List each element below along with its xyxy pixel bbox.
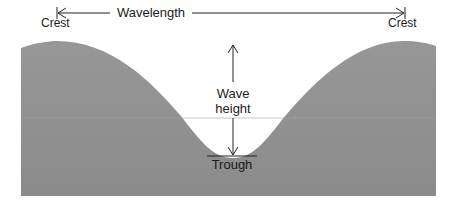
trough-label: Trough <box>212 157 253 172</box>
crest-left-label: Crest <box>41 16 70 30</box>
crest-right-label: Crest <box>388 16 417 30</box>
wave-height-label-line1: Wave <box>217 86 250 101</box>
wavelength-label: Wavelength <box>117 5 185 20</box>
wave-height-label-line2: height <box>215 101 251 116</box>
wave-diagram: Crest Crest Wavelength Wave height Troug… <box>0 0 455 202</box>
wavelength-arrow <box>57 7 405 19</box>
